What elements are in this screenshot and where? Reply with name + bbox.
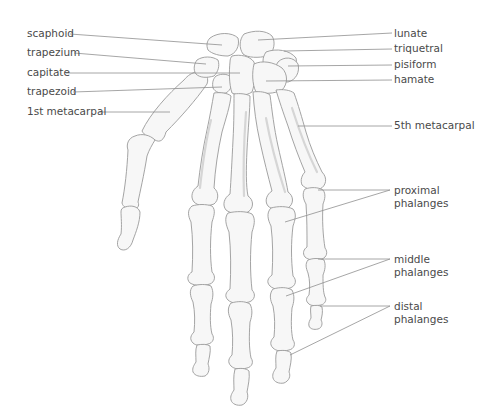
ring-distal-phalanx	[273, 350, 292, 383]
label-capitate: capitate	[27, 66, 70, 79]
label-proximal-phalanges: proximal phalanges	[394, 184, 448, 210]
middle-finger	[226, 212, 255, 406]
little-middle-phalanx	[306, 259, 326, 306]
leader-lunate	[258, 33, 392, 40]
leader-proximal-ring	[285, 190, 390, 222]
index-distal-phalanx	[193, 344, 211, 376]
label-first-metacarpal: 1st metacarpal	[27, 105, 106, 118]
label-distal-line2: phalanges	[394, 313, 448, 326]
label-lunate: lunate	[394, 27, 427, 40]
leader-triquetral	[284, 49, 392, 51]
label-proximal-line1: proximal	[394, 184, 448, 197]
label-middle-phalanges: middle phalanges	[394, 253, 448, 279]
index-finger	[188, 205, 215, 377]
carpals	[194, 31, 298, 95]
leader-distal-ring	[290, 306, 390, 355]
label-hamate: hamate	[394, 73, 434, 86]
trapezium-bone	[194, 57, 219, 77]
thumb-proximal-phalanx	[122, 135, 155, 210]
middle-middle-phalanx	[228, 302, 252, 369]
hand-bones-diagram: scaphoid trapezium capitate trapezoid 1s…	[0, 0, 481, 415]
label-distal-line1: distal	[394, 300, 448, 313]
label-fifth-metacarpal: 5th metacarpal	[394, 119, 475, 132]
label-triquetral: triquetral	[394, 42, 443, 55]
label-trapezoid: trapezoid	[27, 85, 77, 98]
label-pisiform: pisiform	[394, 58, 436, 71]
leader-scaphoid	[70, 34, 222, 45]
capitate-bone	[229, 55, 255, 95]
index-proximal-phalanx	[188, 205, 215, 286]
leader-trapezium	[74, 53, 206, 64]
first-metacarpal-bone	[142, 72, 208, 142]
label-middle-line2: phalanges	[394, 266, 448, 279]
little-proximal-phalanx	[303, 188, 326, 260]
little-finger	[303, 188, 326, 330]
thumb-distal-phalanx	[117, 206, 140, 250]
label-scaphoid: scaphoid	[27, 27, 74, 40]
ring-proximal-phalanx	[268, 207, 296, 290]
scaphoid-bone	[207, 34, 239, 57]
little-distal-phalanx	[309, 305, 323, 329]
ring-middle-phalanx	[270, 288, 294, 351]
ring-finger	[268, 207, 296, 384]
leader-pisiform	[288, 65, 392, 66]
middle-distal-phalanx	[231, 368, 250, 405]
index-middle-phalanx	[190, 285, 213, 346]
second-metacarpal-bone	[192, 93, 231, 206]
label-middle-line1: middle	[394, 253, 448, 266]
label-trapezium: trapezium	[27, 46, 80, 59]
middle-proximal-phalanx	[226, 212, 255, 304]
label-proximal-line2: phalanges	[394, 197, 448, 210]
label-distal-phalanges: distal phalanges	[394, 300, 448, 326]
leader-middle-ring	[286, 259, 390, 296]
